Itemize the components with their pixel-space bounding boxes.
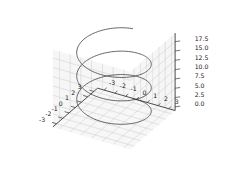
tick-label: -3 <box>109 79 115 86</box>
tick-label: 1 <box>65 94 69 101</box>
tick-label: 10.0 <box>195 63 209 70</box>
tick-label: 17.5 <box>195 35 209 42</box>
tick-label: 7.5 <box>195 72 205 79</box>
tick-label: 1 <box>153 92 157 99</box>
tick-label: -1 <box>51 105 57 112</box>
tick-label: 3 <box>77 83 81 90</box>
axes3d-plot: -3-2-10123-3-2-101230.02.55.07.510.012.5… <box>0 0 252 181</box>
figure-canvas: -3-2-10123-3-2-101230.02.55.07.510.012.5… <box>0 0 252 181</box>
tick-label: 0 <box>59 100 63 107</box>
tick-label: 0.0 <box>195 100 205 107</box>
tick-label: 2.5 <box>195 91 205 98</box>
tick-label: 5.0 <box>195 82 205 89</box>
tick-label: -1 <box>131 85 137 92</box>
tick-label: 2 <box>164 95 168 102</box>
tick-label: 0 <box>142 89 146 96</box>
tick-label: 12.5 <box>195 54 209 61</box>
tick-label: 15.0 <box>195 44 209 51</box>
tick-label: -2 <box>120 82 126 89</box>
tick-label: 2 <box>71 89 75 96</box>
tick-label: 3 <box>175 98 179 105</box>
